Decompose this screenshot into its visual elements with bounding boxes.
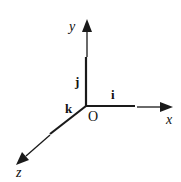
z-arrowhead-icon bbox=[16, 152, 29, 165]
k-vector-label: k bbox=[65, 102, 72, 115]
z-axis-line bbox=[26, 135, 50, 156]
x-arrowhead-icon bbox=[160, 102, 173, 112]
origin-label: O bbox=[88, 110, 98, 124]
y-arrowhead-icon bbox=[82, 19, 92, 32]
coordinate-axes-diagram bbox=[0, 0, 181, 182]
x-axis-label: x bbox=[166, 113, 172, 127]
z-axis-label: z bbox=[16, 166, 21, 180]
y-axis bbox=[82, 19, 92, 106]
z-axis bbox=[16, 106, 86, 165]
x-axis bbox=[86, 102, 173, 112]
j-vector-label: j bbox=[75, 75, 79, 88]
i-vector-label: i bbox=[111, 88, 115, 101]
y-axis-label: y bbox=[69, 20, 75, 34]
